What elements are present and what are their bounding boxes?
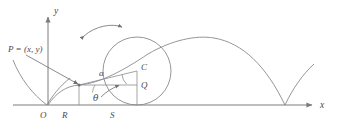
radius-label: a [99, 68, 104, 78]
origin-label: O [40, 110, 47, 120]
point-p-marker [78, 84, 81, 87]
figure-canvas: P = (x, y) y x O R S C Q a θ [0, 0, 338, 132]
point-s-label: S [110, 110, 115, 120]
point-q-label: Q [141, 80, 148, 90]
cycloid-figure: P = (x, y) y x O R S C Q a θ [0, 0, 338, 132]
angle-arc-at-c [122, 75, 127, 84]
angle-arc-at-p [93, 85, 96, 93]
cycloid-next-arch [285, 64, 314, 105]
cycloid-previous-arch-left [13, 60, 47, 105]
segment-radius-p-to-c [79, 71, 137, 85]
cycloid-main-arch [48, 37, 285, 105]
point-c-label: C [141, 62, 148, 72]
angle-theta-label: θ [93, 93, 99, 103]
p-coordinate-label: P = (x, y) [7, 44, 42, 54]
x-axis-label: x [319, 100, 325, 110]
rotation-direction-arrow [84, 25, 122, 36]
y-axis-label: y [53, 6, 59, 16]
p-label-leader [26, 55, 78, 84]
point-r-label: R [61, 110, 68, 120]
